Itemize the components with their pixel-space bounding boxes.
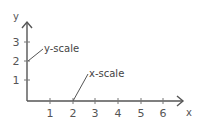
y-scale-label: y-scale (44, 43, 79, 54)
y-tick-label-2: 2 (13, 55, 20, 68)
y-tick-label-1: 1 (13, 74, 20, 87)
x-scale-pointer-line (73, 74, 88, 101)
y-tick-label-3: 3 (13, 36, 20, 49)
axes-diagram: 1 2 3 1 2 3 4 5 6 y x y-scale x-scale (0, 0, 204, 126)
x-tick-label-2: 2 (70, 107, 77, 120)
x-tick-label-3: 3 (92, 107, 99, 120)
x-tick-label-1: 1 (47, 107, 54, 120)
y-axis-name: y (13, 11, 19, 22)
y-scale-pointer-line (28, 49, 43, 61)
x-tick-label-6: 6 (160, 107, 167, 120)
x-scale-label: x-scale (89, 68, 124, 79)
x-tick-label-5: 5 (138, 107, 145, 120)
x-tick-label-4: 4 (115, 107, 122, 120)
x-axis-name: x (186, 107, 192, 118)
